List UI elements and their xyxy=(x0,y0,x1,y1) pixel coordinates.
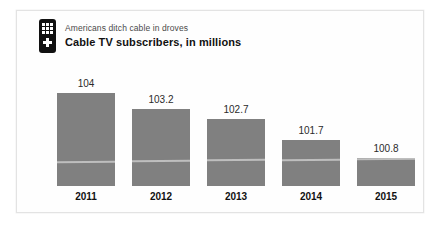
chart-title: Cable TV subscribers, in millions xyxy=(65,37,241,48)
scanline-artifact xyxy=(207,159,265,161)
scanline-artifact xyxy=(357,158,415,160)
x-label-2012: 2012 xyxy=(132,191,190,202)
chart-header-text: Americans ditch cable in droves Cable TV… xyxy=(65,24,241,48)
bar-2011[interactable] xyxy=(57,93,115,186)
chart-header: Americans ditch cable in droves Cable TV… xyxy=(39,19,241,53)
x-label-2015: 2015 xyxy=(357,191,415,202)
x-label-2014: 2014 xyxy=(282,191,340,202)
scanline-artifact xyxy=(57,160,115,162)
bar-2014[interactable] xyxy=(282,140,340,186)
tv-remote-icon xyxy=(39,19,56,53)
bar-value-2015: 100.8 xyxy=(357,143,415,154)
chart-card: Americans ditch cable in droves Cable TV… xyxy=(16,10,424,213)
bar-value-2014: 101.7 xyxy=(282,125,340,136)
bar-2012[interactable] xyxy=(132,109,190,186)
bar-value-2012: 103.2 xyxy=(132,94,190,105)
scanline-artifact xyxy=(282,158,340,160)
bar-chart: 104103.2102.7101.7100.8 2011201220132014… xyxy=(17,63,425,213)
bar-value-2011: 104 xyxy=(57,78,115,89)
bar-value-2013: 102.7 xyxy=(207,104,265,115)
x-axis-labels: 20112012201320142015 xyxy=(27,191,415,207)
x-label-2013: 2013 xyxy=(207,191,265,202)
bar-2013[interactable] xyxy=(207,119,265,186)
remote-dpad-icon xyxy=(43,38,52,47)
remote-keypad-icon xyxy=(42,23,53,34)
scanline-artifact xyxy=(132,160,190,162)
chart-kicker: Americans ditch cable in droves xyxy=(65,24,241,33)
x-label-2011: 2011 xyxy=(57,191,115,202)
chart-plot-area: 104103.2102.7101.7100.8 xyxy=(27,63,415,186)
bar-2015[interactable] xyxy=(357,158,415,186)
